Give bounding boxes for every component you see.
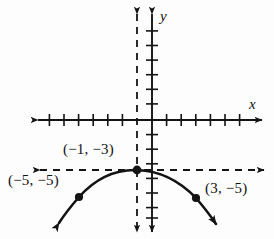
x-axis-label: x: [249, 96, 256, 113]
graph-canvas: [0, 0, 274, 239]
label-right-point: (3, −5): [205, 180, 247, 197]
y-axis-label: y: [160, 8, 167, 25]
label-vertex-point: (−1, −3): [63, 141, 114, 158]
point-right: [192, 194, 200, 202]
y-axis: [146, 14, 158, 232]
label-left-point: (−5, −5): [8, 172, 59, 189]
x-axis: [38, 114, 262, 126]
point-vertex: [133, 166, 142, 175]
point-left: [75, 193, 83, 201]
parabola-graph-figure: (−1, −3) (−5, −5) (3, −5) x y: [0, 0, 274, 239]
